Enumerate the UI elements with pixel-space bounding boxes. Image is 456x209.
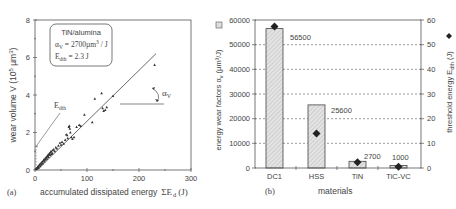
- y-tick-label: 2: [26, 128, 30, 137]
- data-point: [66, 137, 69, 139]
- svg-text:Edth: Edth: [54, 101, 66, 111]
- data-point: [78, 124, 81, 126]
- data-point: [100, 92, 103, 94]
- category-label: TiC-VC: [386, 172, 411, 181]
- data-point: [69, 131, 72, 133]
- bar-chart-b: 0 10000 20000 30000 40000 50000 60000 0 …: [214, 16, 455, 197]
- y-tick-label-right: 40: [427, 65, 435, 74]
- legend-diamond: [446, 33, 452, 39]
- category-label: DC1: [267, 172, 282, 181]
- bar-value-label: 2700: [364, 152, 381, 161]
- y-axis-label-a: wear volume V (105 µm3): [8, 47, 18, 143]
- scatter-chart-a: 0 2 4 6 8 0 100 200 300 wear volume V (1…: [7, 16, 197, 199]
- y-tick-label: 8: [26, 16, 30, 25]
- y-tick-label-left: 10000: [229, 139, 250, 148]
- y-tick-label-left: 50000: [229, 40, 250, 49]
- edth-annotation: × Edth: [35, 101, 66, 170]
- fit-line: [37, 54, 156, 170]
- bar-value-label: 1000: [392, 153, 409, 162]
- bar-dc1: [266, 29, 283, 168]
- alpha-annotation: αV: [120, 87, 172, 104]
- legend-swatch-bar: [216, 22, 222, 28]
- data-point: [59, 141, 62, 143]
- y-tick-label-right: 0: [427, 164, 431, 173]
- y-axis-label-right-b: threshold energy Edth (J): [445, 33, 455, 133]
- y-tick-label-right: 30: [427, 90, 435, 99]
- y-axis-label-left-b: energy wear factors αv (µm³/J): [214, 22, 224, 151]
- y-tick-label-left: 40000: [229, 65, 250, 74]
- data-point: [68, 125, 71, 127]
- bars: [266, 29, 407, 168]
- data-point: [83, 113, 86, 115]
- y-tick-label: 0: [26, 166, 30, 175]
- legend-alpha: αV = 2700µm3 / J: [55, 39, 108, 50]
- y-tick-label-right: 20: [427, 114, 435, 123]
- bar-value-label: 56500: [290, 33, 311, 42]
- y-tick-label-right: 50: [427, 40, 435, 49]
- y-tick-label-left: 0: [246, 164, 250, 173]
- bar-value-label: 25600: [331, 106, 352, 115]
- svg-text:×: ×: [35, 143, 39, 149]
- data-point: [61, 140, 64, 142]
- svg-text:energy wear factors αv (µm³/J): energy wear factors αv (µm³/J): [214, 49, 224, 151]
- data-point: [64, 139, 67, 141]
- data-point: [91, 121, 94, 123]
- y-tick-label: 4: [26, 91, 30, 100]
- x-axis-label-a: accumulated dissipated energyΣEd(J): [40, 187, 188, 198]
- y-tick-label-right: 60: [427, 16, 435, 25]
- data-point: [153, 64, 156, 66]
- diamond-ticvc: [395, 163, 403, 171]
- category-label: TiN: [352, 172, 363, 181]
- scatter-points: [35, 64, 156, 170]
- y-tick-label-left: 30000: [229, 90, 250, 99]
- category-label: HSS: [309, 172, 324, 181]
- data-point: [94, 97, 97, 99]
- panel-label-a: (a): [7, 187, 17, 197]
- data-point: [57, 144, 60, 146]
- legend-box-a: TiN/alumina αV = 2700µm3 / J Edth = 2.3 …: [50, 24, 112, 66]
- x-axis-label-b: materials: [318, 186, 352, 196]
- y-tick-label-right: 10: [427, 139, 435, 148]
- x-tick-label: 0: [33, 174, 37, 183]
- data-point: [105, 106, 108, 108]
- x-tick-label: 200: [133, 174, 146, 183]
- legend-material: TiN/alumina: [61, 28, 102, 37]
- panel-label-b: (b): [265, 186, 275, 196]
- svg-text:αV: αV: [162, 88, 172, 99]
- data-point: [104, 109, 107, 111]
- data-point: [73, 136, 76, 138]
- y-tick-label-left: 20000: [229, 114, 250, 123]
- figure: 0 2 4 6 8 0 100 200 300 wear volume V (1…: [0, 0, 456, 209]
- svg-text:threshold energy Edth (J): threshold energy Edth (J): [445, 51, 455, 133]
- y-tick-label: 6: [26, 53, 30, 62]
- y-tick-label-left: 60000: [229, 16, 250, 25]
- data-point: [75, 125, 78, 127]
- x-tick-label: 300: [185, 174, 198, 183]
- x-tick-label: 100: [81, 174, 94, 183]
